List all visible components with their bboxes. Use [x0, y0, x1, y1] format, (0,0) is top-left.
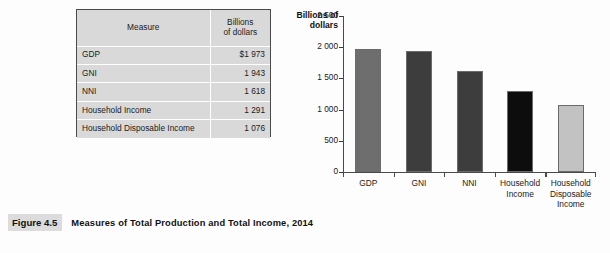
x-tick-mark	[343, 173, 344, 177]
x-category-label: HouseholdIncome	[495, 178, 546, 199]
y-tick-label: 500	[286, 136, 338, 144]
y-axis-line	[343, 16, 344, 173]
cell-value: 1 618	[210, 83, 270, 101]
figure-title: Measures of Total Production and Total I…	[71, 218, 313, 228]
column-header-measure: Measure	[77, 10, 210, 46]
figure-caption: Figure 4.5 Measures of Total Production …	[8, 214, 313, 231]
x-category-label: HouseholdDisposableIncome	[545, 178, 596, 210]
bar-household-disposable-income	[558, 105, 584, 172]
x-category-label-line: Income	[495, 189, 546, 200]
y-tick-label: 1 000	[286, 105, 338, 113]
cell-value: $1 973	[210, 46, 270, 64]
figure-container: Measure Billions of dollars GDP $1 973 G…	[0, 0, 610, 253]
cell-value: 1 291	[210, 101, 270, 119]
table-body: GDP $1 973 GNI 1 943 NNI 1 618 Household…	[77, 46, 270, 138]
x-tick-mark	[394, 173, 395, 177]
table-element: Measure Billions of dollars GDP $1 973 G…	[77, 10, 270, 138]
table-header-row: Measure Billions of dollars	[77, 10, 270, 46]
cell-measure: GDP	[77, 46, 210, 64]
y-tick-label: 1 500	[286, 73, 338, 81]
table-row: GNI 1 943	[77, 64, 270, 82]
y-tick-mark	[339, 78, 343, 79]
x-tick-mark	[444, 173, 445, 177]
y-tick-label: 2 500	[286, 11, 338, 19]
x-category-label-line: Disposable	[545, 189, 596, 200]
cell-measure: NNI	[77, 83, 210, 101]
measures-table: Measure Billions of dollars GDP $1 973 G…	[76, 9, 271, 137]
y-axis-title-line-2: dollars	[286, 20, 338, 30]
bar-gni	[406, 51, 432, 172]
x-category-label-line: Income	[545, 199, 596, 210]
x-tick-mark	[595, 173, 596, 177]
bar-household-income	[507, 91, 533, 172]
figure-number: Figure 4.5	[8, 214, 62, 231]
bar-chart: Billions of dollars 05001 0001 5002 0002…	[286, 8, 606, 208]
cell-value: 1 943	[210, 64, 270, 82]
x-category-label: GDP	[343, 178, 394, 189]
x-category-label: GNI	[394, 178, 445, 189]
cell-measure: Household Disposable Income	[77, 120, 210, 138]
units-line-2: of dollars	[216, 28, 266, 38]
column-header-billions-of-dollars: Billions of dollars	[210, 10, 270, 46]
table-row: NNI 1 618	[77, 83, 270, 101]
bar-nni	[457, 71, 483, 172]
cell-value: 1 076	[210, 120, 270, 138]
x-category-label-line: Household	[495, 178, 546, 189]
y-tick-label: 2 000	[286, 42, 338, 50]
bar-gdp	[355, 49, 381, 172]
cell-measure: Household Income	[77, 101, 210, 119]
x-category-label-line: NNI	[444, 178, 495, 189]
table-row: GDP $1 973	[77, 46, 270, 64]
x-tick-mark	[495, 173, 496, 177]
x-category-label-line: GDP	[343, 178, 394, 189]
x-category-label-line: Household	[545, 178, 596, 189]
y-tick-mark	[339, 141, 343, 142]
y-tick-mark	[339, 47, 343, 48]
table-row: Household Disposable Income 1 076	[77, 120, 270, 138]
table-head: Measure Billions of dollars	[77, 10, 270, 46]
cell-measure: GNI	[77, 64, 210, 82]
x-tick-mark	[545, 173, 546, 177]
table-row: Household Income 1 291	[77, 101, 270, 119]
y-tick-mark	[339, 110, 343, 111]
x-category-label-line: GNI	[394, 178, 445, 189]
x-category-label: NNI	[444, 178, 495, 189]
y-tick-mark	[339, 16, 343, 17]
y-tick-label: 0	[286, 167, 338, 175]
x-axis-line	[343, 172, 596, 173]
